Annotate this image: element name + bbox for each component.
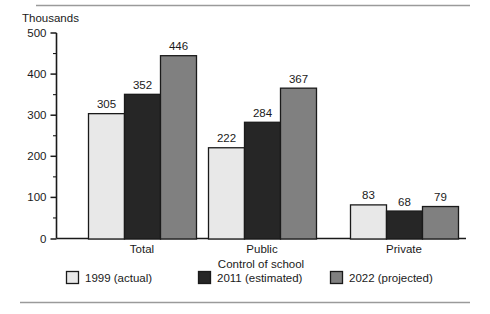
bar-public-2	[281, 88, 317, 239]
bar-private-0	[351, 205, 387, 239]
x-axis-title: Control of school	[218, 258, 304, 270]
legend-swatch	[331, 272, 343, 284]
y-tick-label: 100	[27, 191, 46, 203]
chart-legend: 1999 (actual)2011 (estimated)2022 (proje…	[67, 272, 433, 285]
x-category-label: Public	[246, 243, 278, 255]
bar-private-2	[423, 207, 459, 239]
legend-swatch	[199, 272, 211, 284]
x-category-label: Private	[386, 243, 422, 255]
legend-label: 1999 (actual)	[85, 272, 152, 284]
bar-private-1	[387, 211, 423, 239]
bar-value-label: 83	[362, 189, 375, 201]
x-category-label: Total	[130, 243, 154, 255]
legend-label: 2022 (projected)	[349, 272, 433, 284]
y-axis-unit-label: Thousands	[22, 12, 79, 24]
y-tick-label: 300	[27, 109, 46, 121]
y-tick-label: 400	[27, 68, 46, 80]
y-tick-label: 200	[27, 150, 46, 162]
bar-public-0	[209, 148, 245, 239]
bar-value-label: 367	[289, 73, 308, 85]
bar-value-label: 284	[253, 107, 273, 119]
y-tick-label: 500	[27, 27, 46, 39]
legend-label: 2011 (estimated)	[217, 272, 303, 284]
bar-value-label: 305	[97, 98, 116, 110]
bar-value-label: 222	[217, 132, 236, 144]
bar-value-label: 68	[398, 196, 411, 208]
bar-value-label: 352	[133, 79, 152, 91]
bar-value-label: 446	[169, 40, 188, 52]
legend-swatch	[67, 272, 79, 284]
bar-value-label: 79	[434, 191, 447, 203]
chart-canvas: Thousands 0100200300400500 3053524462222…	[0, 0, 490, 314]
bar-chart-figure: Thousands 0100200300400500 3053524462222…	[0, 0, 490, 314]
bar-public-1	[245, 122, 281, 239]
bar-total-1	[125, 94, 161, 239]
bar-total-0	[89, 114, 125, 239]
bar-total-2	[161, 56, 197, 239]
y-tick-label: 0	[40, 233, 46, 245]
